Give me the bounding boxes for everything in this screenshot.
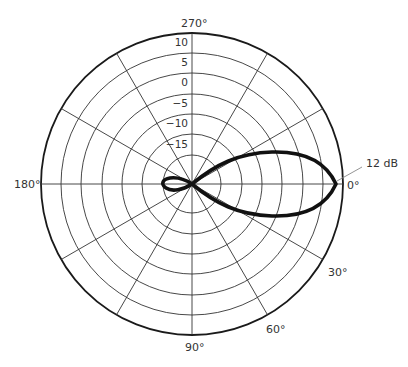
radial-label-minus15: −15	[166, 138, 188, 150]
angle-label-270: 270°	[181, 17, 208, 30]
angle-label-180: 180°	[14, 178, 41, 191]
angle-label-0: 0°	[347, 179, 360, 192]
angle-label-30: 30°	[328, 266, 348, 279]
radial-label-0: 0	[181, 76, 188, 88]
radial-label-5: 5	[181, 56, 188, 68]
radial-label-minus5: −5	[173, 97, 188, 109]
radial-label-10: 10	[175, 36, 188, 48]
peak-annotation: 12 dB	[366, 157, 398, 170]
angle-label-90: 90°	[185, 341, 205, 354]
angle-label-60: 60°	[266, 323, 286, 336]
polar-chart: 270° 180° 0° 30° 60° 90° 12 dB 10 5 0 −5…	[0, 0, 408, 367]
radial-label-minus10: −10	[166, 117, 188, 129]
